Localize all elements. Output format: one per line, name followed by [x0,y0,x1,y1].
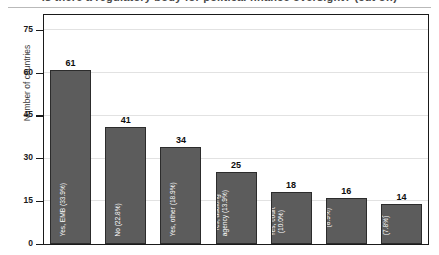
bar-category-label: Yes, EMB (33.9%) [59,183,67,237]
chart-figure: Is there a regulatory body for political… [0,0,439,255]
y-axis-tick: 0 [0,244,43,245]
y-axis-tick-mark [36,244,43,245]
bars-layer: Yes, EMB (33.9%)61No (22.8%)41Yes, other… [43,14,429,245]
y-axis-tick-mark [36,201,43,202]
bar-group: No (22.8%)41 [105,111,146,244]
bar-value-label: 18 [271,180,312,190]
y-axis-tick: 30 [0,158,43,159]
bar-category-label: Yes, auditingagency (13.9%) [216,190,229,236]
y-axis-tick-label: 60 [24,67,33,77]
bar-value-label: 14 [381,192,422,202]
bar-group: Yes, EMB (33.9%)61 [50,54,91,244]
title-divider [8,7,431,8]
bar-category-label: Yes, other (18.9%) [170,182,178,236]
bar-category-label: Yes, court(10.0%) [271,207,284,236]
bar-group: Yes, auditingagency (13.9%)25 [216,156,257,243]
y-axis-tick-label: 30 [24,152,33,162]
y-axis-tick-label: 15 [24,195,33,205]
y-axis-tick: 45 [0,115,43,116]
y-axis-tick: 60 [0,73,43,74]
bar-category-label: No (22.8%) [114,203,122,236]
bar[interactable]: Yes, other (18.9%) [160,147,201,244]
y-axis-tick-label: 75 [24,24,33,34]
bar[interactable]: Yes, auditingagency (13.9%) [216,172,257,243]
bar-value-label: 61 [50,58,91,68]
y-axis-tick-mark [36,30,43,31]
bar[interactable]: Yes, court(10.0%) [271,192,312,243]
bar[interactable]: Yes,ministry(7.8%) [381,204,422,244]
bar-group: Yes,institution forthis purpose(8.9%)16 [326,182,367,244]
bar-group: Yes, other (18.9%)34 [160,131,201,244]
bar-value-label: 16 [326,186,367,196]
bar-value-label: 41 [105,115,146,125]
y-axis-tick-mark [36,73,43,74]
y-axis-tick-label: 0 [28,238,33,248]
chart-title: Is there a regulatory body for political… [42,0,397,3]
bar-group: Yes, court(10.0%)18 [271,176,312,243]
y-axis-tick-mark [36,115,43,116]
bar[interactable]: Yes,institution forthis purpose(8.9%) [326,198,367,244]
y-axis-tick: 15 [0,201,43,202]
bar-value-label: 34 [160,135,201,145]
y-axis-tick: 75 [0,30,43,31]
y-axis-tick-label: 45 [24,109,33,119]
bar-group: Yes,ministry(7.8%)14 [381,188,422,244]
bar[interactable]: Yes, EMB (33.9%) [50,70,91,244]
bar-category-label: Yes,institution forthis purpose(8.9%) [326,199,331,236]
y-axis-tick-mark [36,158,43,159]
bar[interactable]: No (22.8%) [105,127,146,244]
bar-category-label: Yes,ministry(7.8%) [381,214,390,237]
bar-value-label: 25 [216,160,257,170]
